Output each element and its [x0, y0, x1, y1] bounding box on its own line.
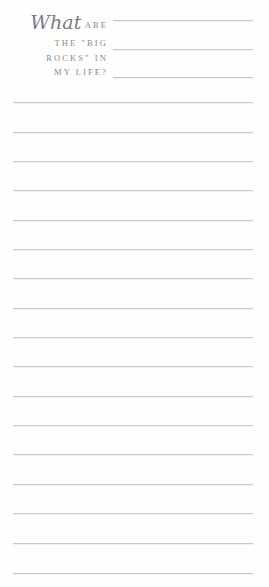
body-rule-15[interactable] [13, 513, 253, 514]
prompt-script-word: What [30, 11, 82, 33]
header-rule-2[interactable] [113, 49, 253, 50]
prompt-line-2: THE "BIG [10, 39, 108, 48]
body-rule-9[interactable] [13, 337, 253, 338]
body-rule-16[interactable] [13, 543, 253, 544]
prompt-line-4: MY LIFE? [10, 68, 108, 77]
body-rule-14[interactable] [13, 484, 253, 485]
header-rule-3[interactable] [113, 77, 253, 78]
body-rule-13[interactable] [13, 454, 253, 455]
body-rule-12[interactable] [13, 425, 253, 426]
body-rule-2[interactable] [13, 132, 253, 133]
body-rule-11[interactable] [13, 396, 253, 397]
header-rule-1[interactable] [113, 20, 253, 21]
prompt-line-3: ROCKS" IN [10, 54, 108, 63]
prompt-line-1-caps: ARE [85, 20, 108, 30]
journal-page: WhatARE THE "BIG ROCKS" IN MY LIFE? [0, 0, 269, 587]
body-rule-17[interactable] [13, 573, 253, 574]
body-rule-5[interactable] [13, 220, 253, 221]
body-rule-4[interactable] [13, 190, 253, 191]
prompt-heading: WhatARE THE "BIG ROCKS" IN MY LIFE? [10, 10, 108, 77]
body-rule-10[interactable] [13, 366, 253, 367]
body-rule-7[interactable] [13, 278, 253, 279]
body-rule-1[interactable] [13, 102, 253, 103]
body-rule-3[interactable] [13, 161, 253, 162]
prompt-line-1: WhatARE [10, 12, 108, 31]
body-rule-8[interactable] [13, 308, 253, 309]
body-rule-6[interactable] [13, 249, 253, 250]
